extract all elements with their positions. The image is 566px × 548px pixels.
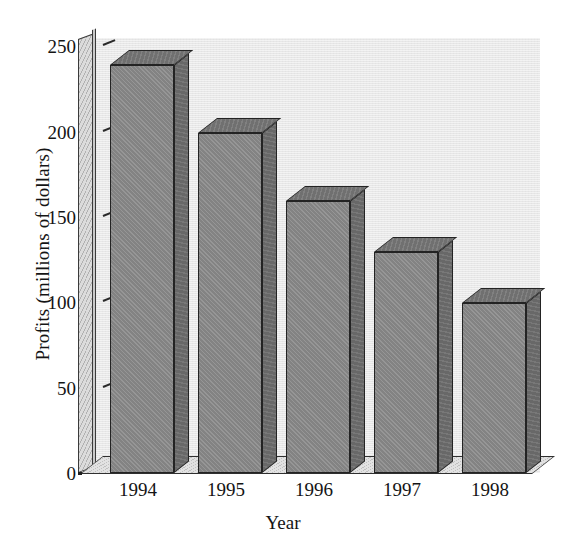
bar-1996-front: [286, 201, 350, 473]
bar-1997[interactable]: [374, 252, 438, 473]
y-axis-wall-face: [78, 34, 93, 473]
bar-1995[interactable]: [198, 133, 262, 473]
bar-1995-side: [262, 121, 277, 473]
bar-1996[interactable]: [286, 201, 350, 473]
x-axis-title: Year: [0, 512, 566, 534]
bar-1996-side: [350, 189, 365, 473]
y-axis-title: Profits (millions of dollars): [32, 94, 54, 414]
bar-1997-side: [438, 240, 453, 473]
y-axis-wall: [78, 30, 98, 480]
bar-1994-side: [174, 53, 189, 473]
bar-1995-front: [198, 133, 262, 473]
axis-origin-marker: [78, 472, 82, 475]
y-tick-label-0: 0: [26, 464, 76, 483]
bars-layer: [96, 38, 556, 473]
bar-1998-front: [462, 303, 526, 473]
bar-chart: 250 200 150 100 50 0: [0, 0, 566, 548]
bar-1998-side: [526, 291, 541, 473]
y-tick-label-250: 250: [26, 37, 76, 56]
bar-1998[interactable]: [462, 303, 526, 473]
x-tick-label-1997: 1997: [362, 479, 442, 501]
x-tick-label-1996: 1996: [274, 479, 354, 501]
x-tick-label-1998: 1998: [450, 479, 530, 501]
bar-1994-front: [110, 65, 174, 473]
x-tick-label-1995: 1995: [186, 479, 266, 501]
x-tick-label-1994: 1994: [98, 479, 178, 501]
bar-1994[interactable]: [110, 65, 174, 473]
bar-1997-front: [374, 252, 438, 473]
